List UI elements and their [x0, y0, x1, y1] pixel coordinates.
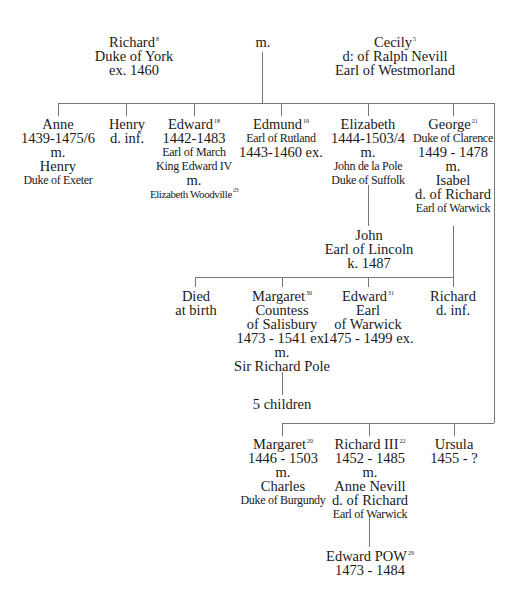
dates: at birth	[175, 303, 216, 317]
person-anne: Anne 1439-1475/6 m. Henry Duke of Exeter	[21, 117, 95, 187]
footnote: 5	[413, 36, 416, 42]
dates: ex. 1460	[95, 63, 174, 77]
spouse-title: Earl of Warwick	[413, 201, 493, 215]
person-margaret-of-york: Margaret20 1446 - 1503 m. Charles Duke o…	[241, 437, 326, 507]
spouse-name: John de la Pole	[331, 159, 405, 173]
person-edward-iv: Edward18 1442-1483 Earl of March King Ed…	[150, 117, 238, 201]
person-edward-earl-of-warwick: Edward31 Earl of Warwick 1475 - 1499 ex.	[322, 289, 413, 345]
dates: 1455 - ?	[430, 451, 478, 465]
person-john-earl-of-lincoln: John Earl of Lincoln k. 1487	[325, 228, 414, 270]
dates: d. inf.	[430, 303, 476, 317]
spouse-title: Earl of Warwick	[332, 507, 408, 521]
marriage-text: m.	[256, 35, 271, 49]
dates: 1452 - 1485	[332, 451, 408, 465]
spouse-name: Isabel	[413, 173, 493, 187]
children-count: 5 children	[253, 397, 311, 411]
footnote: 23	[233, 187, 238, 193]
name: Edmund	[253, 116, 302, 132]
title: Earl of March	[150, 145, 238, 159]
footnote: 30	[306, 290, 312, 296]
marriage-label: m.	[256, 35, 271, 49]
pole-children-note: 5 children	[253, 397, 311, 411]
dates: 1443-1460 ex.	[239, 145, 323, 159]
title: of Warwick	[322, 317, 413, 331]
person-cecily-nevill: Cecily5 d: of Ralph Nevill Earl of Westm…	[335, 35, 455, 77]
footnote: 31	[388, 290, 394, 296]
footnote: 19	[303, 118, 309, 124]
title: Duke of York	[95, 49, 174, 63]
marriage-text: m.	[331, 145, 405, 159]
spouse-name: Anne Nevill	[332, 479, 408, 493]
spouse-name: Henry	[21, 159, 95, 173]
spouse-name: Elizabeth Woodville	[150, 188, 232, 200]
spouse-title: Duke of Exeter	[21, 173, 95, 187]
name: Anne	[21, 117, 95, 131]
footnote: 22	[400, 438, 406, 444]
marriage-text: m.	[241, 465, 326, 479]
marriage-text: m.	[332, 465, 408, 479]
dates: k. 1487	[325, 256, 414, 270]
dates: 1473 - 1484	[326, 563, 414, 577]
name: Died	[175, 289, 216, 303]
person-george: George21 Duke of Clarence 1449 - 1478 m.…	[413, 117, 493, 215]
spouse-title: Duke of Suffolk	[331, 173, 405, 187]
person-elizabeth: Elizabeth 1444-1503/4 m. John de la Pole…	[331, 117, 405, 187]
person-edmund: Edmund19 Earl of Rutland 1443-1460 ex.	[239, 117, 323, 159]
spouse-name: Sir Richard Pole	[234, 359, 330, 373]
footnote: 29	[408, 550, 414, 556]
footnote: 20	[307, 438, 313, 444]
title: Earl of Lincoln	[325, 242, 414, 256]
marriage-text: m.	[234, 345, 330, 359]
person-edward-prince-of-wales: Edward POW29 1473 - 1484	[326, 549, 414, 577]
dates: 1473 - 1541 ex.	[234, 331, 330, 345]
dates: 1475 - 1499 ex.	[322, 331, 413, 345]
marriage-text: m.	[21, 145, 95, 159]
dates: 1444-1503/4	[331, 131, 405, 145]
person-ursula: Ursula 1455 - ?	[430, 437, 478, 465]
dates: 1442-1483	[150, 131, 238, 145]
spouse-name: Charles	[241, 479, 326, 493]
person-margaret-pole: Margaret30 Countess of Salisbury 1473 - …	[234, 289, 330, 373]
footnote: 21	[472, 118, 478, 124]
title: Countess	[234, 303, 330, 317]
dates: 1439-1475/6	[21, 131, 95, 145]
title: Earl of Westmorland	[335, 63, 455, 77]
title: Earl of Rutland	[239, 131, 323, 145]
dates: d. inf.	[109, 131, 145, 145]
spouse-parentage: d. of Richard	[413, 187, 493, 201]
name: Ursula	[430, 437, 478, 451]
marriage-text: m.	[150, 173, 238, 187]
name: Elizabeth	[331, 117, 405, 131]
title: Duke of Clarence	[413, 131, 493, 145]
footnote: 8	[156, 36, 159, 42]
dates: 1449 - 1478	[413, 145, 493, 159]
name: George	[428, 116, 470, 132]
person-richard-iii: Richard III22 1452 - 1485 m. Anne Nevill…	[332, 437, 408, 521]
footnote: 18	[214, 118, 220, 124]
person-henry: Henry d. inf.	[109, 117, 145, 145]
spouse-title: Duke of Burgundy	[241, 493, 326, 507]
spouse-parentage: d. of Richard	[332, 493, 408, 507]
name: Henry	[109, 117, 145, 131]
title: d: of Ralph Nevill	[335, 49, 455, 63]
name: John	[325, 228, 414, 242]
person-richard-d-inf: Richard d. inf.	[430, 289, 476, 317]
person-richard-duke-of-york: Richard8 Duke of York ex. 1460	[95, 35, 174, 77]
title: of Salisbury	[234, 317, 330, 331]
name: Richard	[430, 289, 476, 303]
dates: 1446 - 1503	[241, 451, 326, 465]
title: King Edward IV	[150, 159, 238, 173]
person-died-at-birth: Died at birth	[175, 289, 216, 317]
title: Earl	[322, 303, 413, 317]
marriage-text: m.	[413, 159, 493, 173]
